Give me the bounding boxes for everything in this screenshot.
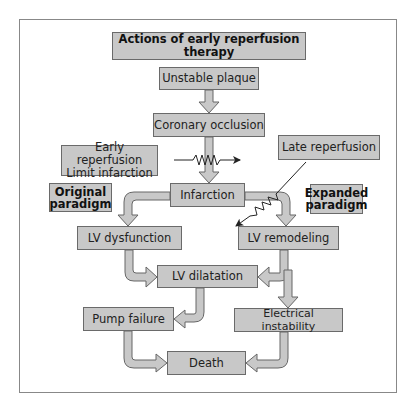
label-original-paradigm: Original paradigm	[49, 183, 112, 212]
arrow-dilatation-pump	[174, 288, 204, 328]
arrow-dysfunction-dilatation	[125, 250, 157, 287]
arrow-pump-death	[124, 331, 167, 372]
title-box: Actions of early reperfusion therapy	[112, 32, 306, 60]
early-reperfusion-line1: Early reperfusion	[62, 141, 157, 167]
node-late-reperfusion: Late reperfusion	[278, 135, 380, 160]
early-reperfusion-line2: Limit infarction	[66, 167, 153, 180]
label-expanded-paradigm: Expanded paradigm	[310, 184, 363, 214]
node-lv-remodeling: LV remodeling	[238, 226, 339, 250]
node-lv-dilatation: LV dilatation	[157, 265, 258, 288]
original-paradigm-line1: Original	[55, 186, 106, 198]
node-coronary-occlusion: Coronary occlusion	[153, 113, 265, 137]
node-infarction: Infarction	[170, 183, 245, 207]
expanded-paradigm-line2: paradigm	[306, 199, 368, 211]
node-unstable-plaque: Unstable plaque	[159, 67, 259, 90]
node-lv-dysfunction: LV dysfunction	[77, 226, 182, 250]
node-early-reperfusion: Early reperfusion Limit infarction	[61, 145, 158, 176]
node-pump-failure: Pump failure	[83, 307, 174, 331]
node-death: Death	[167, 351, 246, 375]
arrow-infarction-remodeling	[245, 192, 296, 226]
node-electrical-instability: Electrical instability	[234, 308, 343, 332]
arrow-plaque-occlusion	[199, 90, 219, 113]
original-paradigm-line2: paradigm	[50, 198, 112, 210]
arrow-electrical-death	[246, 332, 288, 372]
arrow-infarction-dysfunction	[118, 192, 170, 226]
